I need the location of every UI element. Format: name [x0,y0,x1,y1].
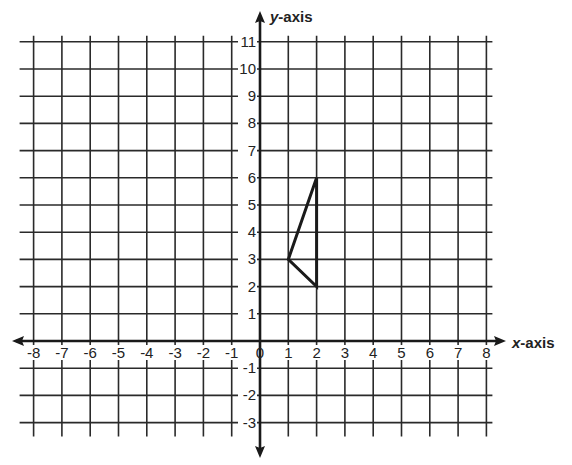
x-tick-label: 8 [482,344,490,361]
x-tick-label: -6 [84,344,97,361]
x-tick-label: 5 [397,344,405,361]
x-tick-label: -2 [197,344,210,361]
x-tick-label: 1 [284,344,292,361]
y-axis-title: y-axis [270,8,313,25]
y-tick-label: 9 [248,87,256,104]
x-tick-label: 0 [256,344,264,361]
x-tick-label: -1 [225,344,238,361]
x-tick-label: 6 [426,344,434,361]
y-tick-label: -1 [243,359,256,376]
coordinate-plane: -8-7-6-5-4-3-2-1012345678-3-2-1123456789… [0,0,572,465]
x-tick-label: 7 [454,344,462,361]
y-tick-label: -2 [243,386,256,403]
x-axis-title: x-axis [512,334,555,351]
y-tick-label: 5 [248,196,256,213]
x-tick-label: -8 [27,344,40,361]
y-tick-label: 3 [248,250,256,267]
y-tick-label: 4 [248,223,256,240]
x-tick-label: 3 [341,344,349,361]
x-tick-label: -4 [140,344,153,361]
y-tick-label: 2 [248,278,256,295]
y-tick-label: 6 [248,169,256,186]
y-tick-label: 10 [239,60,256,77]
x-tick-label: -5 [112,344,125,361]
y-tick-label: 8 [248,114,256,131]
y-tick-label: -3 [243,414,256,431]
y-tick-label: 11 [240,33,256,50]
y-tick-label: 7 [248,142,256,159]
x-tick-label: 4 [369,344,377,361]
x-tick-label: -7 [55,344,68,361]
x-tick-label: -3 [168,344,181,361]
x-tick-label: 2 [312,344,320,361]
y-tick-label: 1 [248,305,256,322]
